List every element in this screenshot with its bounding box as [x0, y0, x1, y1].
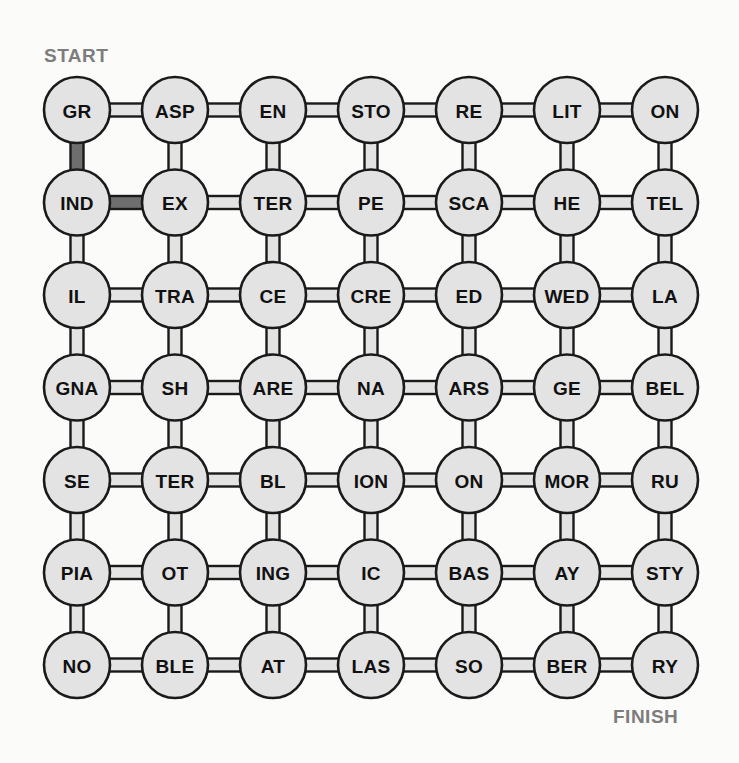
grid-node[interactable]: BL — [240, 447, 306, 513]
connector-horizontal — [106, 566, 146, 579]
grid-node[interactable]: ON — [632, 77, 698, 143]
connector-horizontal — [106, 659, 146, 672]
grid-node[interactable]: CRE — [338, 262, 404, 328]
grid-node[interactable]: EX — [142, 170, 208, 236]
node-label: LA — [652, 286, 678, 307]
grid-node[interactable]: OT — [142, 540, 208, 606]
connector-horizontal — [106, 381, 146, 394]
grid-node[interactable]: ON — [436, 447, 502, 513]
grid-node[interactable]: TRA — [142, 262, 208, 328]
connector-horizontal — [204, 474, 244, 487]
connector-horizontal — [204, 196, 244, 209]
connector-horizontal — [302, 381, 342, 394]
grid-node[interactable]: ARE — [240, 355, 306, 421]
grid-node[interactable]: SCA — [436, 170, 502, 236]
grid-node[interactable]: LAS — [338, 632, 404, 698]
connector-horizontal — [400, 474, 440, 487]
grid-node[interactable]: ED — [436, 262, 502, 328]
grid-node[interactable]: BAS — [436, 540, 502, 606]
node-label: SE — [64, 471, 90, 492]
grid-node[interactable]: NO — [44, 632, 110, 698]
grid-node[interactable]: MOR — [534, 447, 600, 513]
connector-horizontal — [596, 104, 636, 117]
grid-node[interactable]: HE — [534, 170, 600, 236]
node-label: PIA — [61, 563, 94, 584]
connector-horizontal — [302, 659, 342, 672]
node-label: RU — [651, 471, 679, 492]
node-label: IND — [60, 193, 94, 214]
grid-node[interactable]: BEL — [632, 355, 698, 421]
grid-node[interactable]: RE — [436, 77, 502, 143]
node-label: GNA — [55, 378, 98, 399]
grid-node[interactable]: SH — [142, 355, 208, 421]
connector-horizontal — [400, 289, 440, 302]
node-label: BER — [546, 656, 587, 677]
node-label: TEL — [647, 193, 684, 214]
nodes-layer: GRASPENSTORELITONINDEXTERPESCAHETELILTRA… — [44, 77, 698, 698]
connector-horizontal — [204, 381, 244, 394]
grid-node[interactable]: AT — [240, 632, 306, 698]
node-label: LIT — [552, 101, 581, 122]
grid-node[interactable]: STY — [632, 540, 698, 606]
node-label: RE — [456, 101, 483, 122]
connector-horizontal — [498, 566, 538, 579]
node-label: GR — [62, 101, 91, 122]
connector-horizontal — [596, 196, 636, 209]
grid-node[interactable]: GNA — [44, 355, 110, 421]
node-label: BLE — [156, 656, 195, 677]
grid-node[interactable]: LA — [632, 262, 698, 328]
connector-horizontal — [400, 381, 440, 394]
node-label: BEL — [646, 378, 685, 399]
grid-node[interactable]: RY — [632, 632, 698, 698]
grid-node[interactable]: NA — [338, 355, 404, 421]
grid-node[interactable]: STO — [338, 77, 404, 143]
finish-label: FINISH — [613, 706, 678, 728]
grid-node[interactable]: ION — [338, 447, 404, 513]
grid-node[interactable]: EN — [240, 77, 306, 143]
grid-node[interactable]: IC — [338, 540, 404, 606]
node-label: TRA — [155, 286, 195, 307]
grid-node[interactable]: GR — [44, 77, 110, 143]
grid-node[interactable]: BLE — [142, 632, 208, 698]
connector-horizontal — [400, 659, 440, 672]
node-label: BAS — [448, 563, 489, 584]
node-label: TER — [254, 193, 293, 214]
grid-node[interactable]: CE — [240, 262, 306, 328]
grid-node[interactable]: GE — [534, 355, 600, 421]
node-label: SH — [162, 378, 189, 399]
connector-horizontal — [106, 104, 146, 117]
grid-node[interactable]: PIA — [44, 540, 110, 606]
grid-node[interactable]: RU — [632, 447, 698, 513]
node-label: CRE — [350, 286, 391, 307]
grid-node[interactable]: TER — [240, 170, 306, 236]
grid-node[interactable]: SE — [44, 447, 110, 513]
grid-node[interactable]: IL — [44, 262, 110, 328]
node-label: OT — [162, 563, 189, 584]
node-label: IL — [68, 286, 86, 307]
connector-horizontal — [302, 566, 342, 579]
grid-node[interactable]: WED — [534, 262, 600, 328]
grid-node[interactable]: TER — [142, 447, 208, 513]
grid-node[interactable]: AY — [534, 540, 600, 606]
grid-node[interactable]: IND — [44, 170, 110, 236]
node-label: ARS — [448, 378, 489, 399]
connector-horizontal — [498, 381, 538, 394]
grid-node[interactable]: LIT — [534, 77, 600, 143]
node-label: ARE — [252, 378, 293, 399]
grid-node[interactable]: ARS — [436, 355, 502, 421]
node-label: AT — [261, 656, 286, 677]
grid-node[interactable]: PE — [338, 170, 404, 236]
connector-horizontal-highlighted — [106, 196, 146, 209]
grid-node[interactable]: ASP — [142, 77, 208, 143]
connector-horizontal — [302, 104, 342, 117]
connector-horizontal — [596, 289, 636, 302]
puzzle-lattice: GRASPENSTORELITONINDEXTERPESCAHETELILTRA… — [0, 0, 739, 763]
grid-node[interactable]: BER — [534, 632, 600, 698]
connector-horizontal — [596, 381, 636, 394]
connector-horizontal — [400, 566, 440, 579]
grid-node[interactable]: TEL — [632, 170, 698, 236]
connector-horizontal — [302, 289, 342, 302]
grid-node[interactable]: ING — [240, 540, 306, 606]
grid-node[interactable]: SO — [436, 632, 502, 698]
node-label: STO — [351, 101, 391, 122]
